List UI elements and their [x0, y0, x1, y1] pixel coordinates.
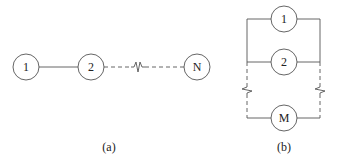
- parallel-node-m-label: M: [279, 111, 290, 125]
- parallel-node-1-label: 1: [281, 12, 287, 26]
- branch-1-left-wire: [247, 19, 271, 62]
- break-zigzag-icon: [131, 62, 145, 72]
- node-1-label: 1: [23, 60, 29, 74]
- caption-a: (a): [102, 140, 115, 154]
- parallel-node-2-label: 2: [281, 55, 287, 69]
- branch-1-right-wire: [297, 19, 320, 62]
- series-diagram: [13, 54, 210, 80]
- left-rail-break-icon: [242, 86, 252, 94]
- caption-b: (b): [277, 140, 291, 154]
- diagram-canvas: 1 2 N (a) 1 2 M (b): [0, 0, 340, 163]
- right-rail-break-icon: [315, 86, 325, 94]
- node-2-label: 2: [88, 60, 94, 74]
- node-n-label: N: [193, 60, 202, 74]
